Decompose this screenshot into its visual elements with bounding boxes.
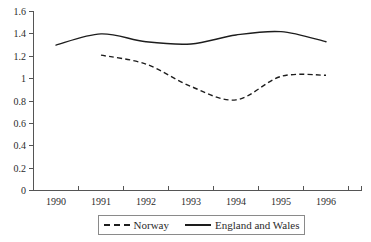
y-tick-label: 0.2 bbox=[14, 163, 27, 174]
x-tick-label: 1991 bbox=[91, 196, 111, 207]
y-tick-label: 0.8 bbox=[14, 96, 27, 107]
x-tick-label: 1995 bbox=[271, 196, 291, 207]
line-chart: 1.6 1.4 1.2 1 0.8 0.6 0.4 0.2 0 1990 199… bbox=[0, 0, 371, 242]
legend-label-england-and-wales: England and Wales bbox=[215, 220, 299, 231]
y-tick-label: 1.2 bbox=[14, 51, 27, 62]
series-line-england-and-wales bbox=[56, 31, 326, 45]
x-tick-label: 1992 bbox=[136, 196, 156, 207]
legend-item-norway[interactable]: Norway bbox=[104, 220, 169, 231]
legend-label-norway: Norway bbox=[134, 220, 169, 231]
y-tick-label: 0 bbox=[21, 185, 26, 196]
x-tick-label: 1996 bbox=[316, 196, 336, 207]
chart-legend: Norway England and Wales bbox=[98, 215, 305, 235]
x-tick-label: 1993 bbox=[181, 196, 201, 207]
x-axis-labels: 1990 1991 1992 1993 1994 1995 1996 bbox=[46, 196, 336, 207]
series-line-norway bbox=[101, 55, 326, 100]
y-tick-label: 1.4 bbox=[14, 28, 27, 39]
y-tick-label: 1.6 bbox=[14, 6, 27, 17]
y-axis-labels: 1.6 1.4 1.2 1 0.8 0.6 0.4 0.2 0 bbox=[14, 6, 27, 196]
y-axis-ticks bbox=[29, 12, 34, 191]
x-tick-label: 1990 bbox=[46, 196, 66, 207]
y-tick-label: 0.6 bbox=[14, 118, 27, 129]
y-tick-label: 1 bbox=[21, 73, 26, 84]
legend-item-england-and-wales[interactable]: England and Wales bbox=[185, 220, 299, 231]
solid-line-swatch-icon bbox=[185, 224, 211, 226]
dashed-line-swatch-icon bbox=[104, 224, 130, 226]
chart-plot-area: 1.6 1.4 1.2 1 0.8 0.6 0.4 0.2 0 1990 199… bbox=[0, 0, 371, 242]
x-tick-label: 1994 bbox=[226, 196, 246, 207]
y-tick-label: 0.4 bbox=[14, 140, 27, 151]
x-axis-ticks bbox=[34, 186, 362, 191]
